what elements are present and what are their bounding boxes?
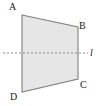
vertex-label-c: C (80, 80, 87, 90)
vertex-label-b: B (79, 21, 86, 31)
vertex-label-d: D (10, 92, 17, 102)
quadrilateral-abcd (22, 15, 78, 92)
geometry-figure: A B C D l (0, 0, 100, 106)
vertex-label-a: A (9, 2, 16, 12)
line-label-l: l (90, 48, 93, 58)
